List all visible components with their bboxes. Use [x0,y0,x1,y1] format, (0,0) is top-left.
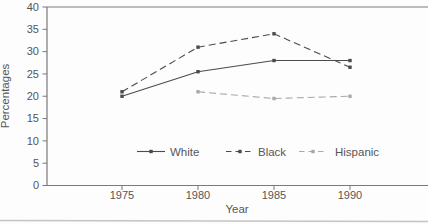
legend-label-black: Black [258,146,286,158]
legend-item-hispanic: Hispanic [299,146,379,158]
data-point-white-1980 [196,70,199,73]
y-axis-tick-label: 30 [27,45,39,57]
y-axis-tick-label: 0 [33,179,39,191]
data-point-black-1980 [196,45,199,48]
legend-item-white: White [137,146,199,158]
y-axis-tick-label: 35 [27,23,39,35]
y-axis-tick-label: 40 [27,1,39,13]
x-axis-tick-label: 1980 [186,189,210,201]
x-axis-tick-label: 1985 [262,189,286,201]
axes-frame-layer [0,7,428,222]
line-chart-canvas: 05101520253035401975198019851990 WhiteBl… [0,0,428,224]
y-axis-tick-label: 25 [27,68,39,80]
series-layer [120,32,351,100]
x-axis-title: Year [225,203,248,215]
data-point-white-1990 [348,59,351,62]
x-axis-tick-label: 1975 [110,189,134,201]
legend-item-black: Black [226,146,286,158]
data-point-hispanic-1990 [348,95,351,98]
data-point-white-1975 [120,95,123,98]
data-point-hispanic-1985 [272,97,275,100]
legend-marker-white [149,150,152,153]
legend-marker-hispanic [311,150,314,153]
legend-marker-black [238,150,241,153]
series-line-black [122,34,350,92]
legend-layer: WhiteBlackHispanic [137,146,379,158]
y-axis-title: Percentages [0,63,11,128]
y-axis-tick-label: 15 [27,112,39,124]
chart-page: 05101520253035401975198019851990 WhiteBl… [0,0,428,224]
series-line-white [122,61,350,97]
page-edge-line [0,221,428,222]
legend-label-white: White [170,146,199,158]
axis-frame [47,7,428,186]
tick-layer: 05101520253035401975198019851990 [27,1,362,201]
y-axis-tick-label: 10 [27,135,39,147]
data-point-hispanic-1980 [196,90,199,93]
y-axis-tick-label: 5 [33,157,39,169]
y-axis-tick-label: 20 [27,90,39,102]
data-point-black-1975 [120,90,123,93]
data-point-black-1985 [272,32,275,35]
data-point-white-1985 [272,59,275,62]
data-point-black-1990 [348,66,351,69]
x-axis-tick-label: 1990 [338,189,362,201]
legend-label-hispanic: Hispanic [335,146,379,158]
